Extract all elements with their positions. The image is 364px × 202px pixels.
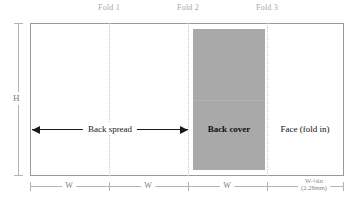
width-label-1: W [62, 180, 76, 192]
back-cover-label: Back cover [208, 123, 251, 135]
arrow-head-right-icon [180, 126, 188, 134]
sheet-outline [30, 23, 344, 176]
height-dimension-cap-bottom [14, 175, 23, 176]
width-dimension-line [30, 186, 344, 187]
width-tick-0 [30, 182, 31, 191]
width-label-3: W [220, 180, 234, 192]
height-dimension-cap-top [14, 23, 23, 24]
width-label-4-line2: (2.28mm) [301, 184, 327, 191]
diagram-canvas: Fold 1 Fold 2 Fold 3 H W W W W-⅛in (2.28… [0, 0, 364, 202]
fold-label-3: Fold 3 [256, 3, 278, 12]
fold-label-1: Fold 1 [98, 3, 120, 12]
arrow-head-left-icon [32, 126, 40, 134]
fold-line-3 [267, 23, 268, 176]
width-tick-1 [109, 182, 110, 191]
fold-line-1 [109, 23, 110, 176]
width-label-4-line1: W-⅛in [305, 177, 323, 184]
width-tick-3 [267, 182, 268, 191]
fold-label-2: Fold 2 [177, 3, 199, 12]
width-label-2: W [141, 180, 155, 192]
width-tick-2 [188, 182, 189, 191]
back-spread-label: Back spread [83, 123, 137, 135]
width-tick-4 [343, 182, 344, 191]
width-label-4: W-⅛in (2.28mm) [298, 177, 330, 191]
face-fold-in-label: Face (fold in) [281, 123, 330, 135]
fold-line-2 [188, 23, 189, 176]
height-dimension-label: H [12, 92, 21, 105]
back-cover-panel [193, 29, 265, 170]
